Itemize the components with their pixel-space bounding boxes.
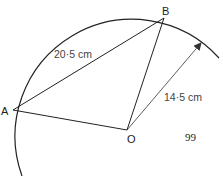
- segment-OB: [127, 18, 164, 130]
- circle-chord-diagram: A B O 20·5 cm 14·5 cm 99: [0, 0, 223, 176]
- page-number: 99: [185, 131, 197, 143]
- segment-OA: [13, 110, 127, 130]
- point-label-B: B: [162, 5, 169, 17]
- radius-length-label: 14·5 cm: [164, 91, 202, 103]
- point-label-A: A: [1, 105, 9, 117]
- chord-length-label: 20·5 cm: [54, 48, 92, 60]
- chord-AB: [13, 18, 164, 110]
- radius-arrow: [127, 43, 201, 130]
- point-label-O: O: [127, 133, 136, 145]
